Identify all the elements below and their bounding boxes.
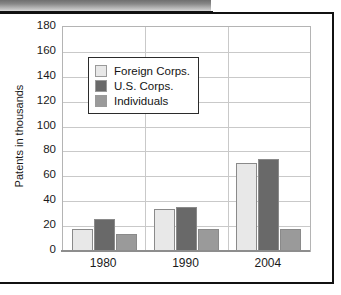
bar-2004-u-s-corps bbox=[258, 159, 279, 251]
y-tick-label-40: 40 bbox=[22, 194, 56, 206]
gridline-100 bbox=[63, 127, 310, 128]
y-tick-label-100: 100 bbox=[22, 120, 56, 132]
category-separator-2 bbox=[228, 27, 229, 251]
bar-chart: Patents in thousands 1801601401201008060… bbox=[0, 0, 341, 295]
x-axis-line bbox=[61, 250, 310, 252]
y-tick-label-120: 120 bbox=[22, 95, 56, 107]
legend-swatch-icon bbox=[95, 80, 107, 92]
y-axis-tick-labels: 180160140120100806040200 bbox=[22, 0, 56, 295]
y-tick-label-140: 140 bbox=[22, 70, 56, 82]
legend-label: Foreign Corps. bbox=[114, 65, 190, 77]
y-tick-label-60: 60 bbox=[22, 169, 56, 181]
bar-2004-individuals bbox=[280, 229, 301, 251]
bar-1990-individuals bbox=[198, 229, 219, 251]
bar-1990-u-s-corps bbox=[176, 207, 197, 251]
x-tick-label-1980: 1980 bbox=[63, 256, 143, 270]
bar-2004-foreign-corps bbox=[236, 163, 257, 251]
legend-item-individuals: Individuals bbox=[95, 93, 190, 108]
bar-1980-u-s-corps bbox=[94, 219, 115, 251]
legend-swatch-icon bbox=[95, 65, 107, 77]
x-tick-label-1990: 1990 bbox=[146, 256, 226, 270]
gridline-80 bbox=[63, 151, 310, 152]
y-tick-label-180: 180 bbox=[22, 20, 56, 32]
legend-swatch-icon bbox=[95, 95, 107, 107]
gridline-160 bbox=[63, 52, 310, 53]
x-tick-label-2004: 2004 bbox=[228, 256, 308, 270]
chart-legend: Foreign Corps.U.S. Corps.Individuals bbox=[88, 57, 199, 114]
y-tick-label-160: 160 bbox=[22, 45, 56, 57]
legend-label: U.S. Corps. bbox=[114, 80, 173, 92]
legend-item-u-s-corps: U.S. Corps. bbox=[95, 78, 190, 93]
bar-1980-individuals bbox=[116, 234, 137, 251]
figure-root: Patents in thousands 1801601401201008060… bbox=[0, 0, 341, 295]
y-tick-label-0: 0 bbox=[22, 244, 56, 256]
legend-label: Individuals bbox=[114, 95, 168, 107]
y-tick-label-20: 20 bbox=[22, 219, 56, 231]
y-tick-label-80: 80 bbox=[22, 144, 56, 156]
bar-1980-foreign-corps bbox=[72, 229, 93, 251]
bar-1990-foreign-corps bbox=[154, 209, 175, 251]
legend-item-foreign-corps: Foreign Corps. bbox=[95, 63, 190, 78]
